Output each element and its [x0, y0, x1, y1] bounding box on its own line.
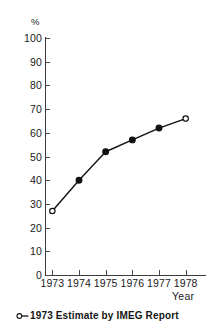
data-point — [76, 177, 82, 183]
series-line — [52, 119, 185, 211]
data-point — [156, 125, 162, 131]
data-point — [129, 137, 135, 143]
legend-note: 1973 Estimate by IMEG Report — [16, 309, 179, 322]
series-markers — [50, 116, 189, 214]
legend-note-text: 1973 Estimate by IMEG Report — [30, 309, 179, 322]
chart-figure: % 1009080706050403020100 197319741975197… — [0, 0, 220, 328]
data-point — [183, 116, 188, 121]
data-series-layer — [0, 0, 220, 328]
data-point — [103, 149, 109, 155]
data-point — [50, 208, 55, 213]
open-circle-icon — [16, 311, 29, 321]
